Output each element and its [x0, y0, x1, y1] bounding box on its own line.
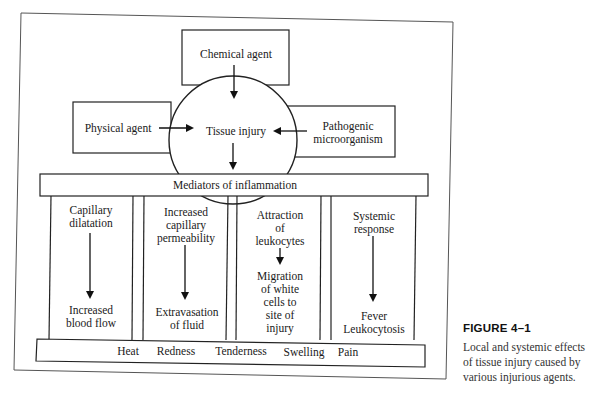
diagram-lines [0, 0, 598, 395]
sign-pain: Pain [323, 346, 373, 359]
mediators-label: Mediators of inflammation [150, 179, 320, 192]
sign-redness: Redness [146, 345, 206, 358]
figure-caption-text: Local and systemic effects of tissue inj… [463, 340, 598, 385]
tissue-injury-label: Tissue injury [196, 125, 276, 138]
column-1-effect: Increased blood flow [55, 304, 127, 330]
sign-heat: Heat [108, 345, 148, 358]
column-2-effect: Extravasation of fluid [147, 306, 227, 332]
column-2-cause: Increased capillary permeability [147, 206, 225, 245]
column-3-effect: Migration of white cells to site of inju… [240, 270, 320, 335]
column-4-cause: Systemic response [334, 210, 414, 236]
figure-caption-title: FIGURE 4–1 [463, 322, 531, 334]
column-1-cause: Capillary dilatation [55, 204, 127, 230]
chemical-agent-label: Chemical agent [186, 48, 286, 61]
pathogenic-microorganism-label: Pathogenic microorganism [303, 120, 393, 146]
physical-agent-label: Physical agent [78, 122, 158, 135]
signs-row: Heat Redness Tenderness Swelling Pain [36, 345, 426, 361]
column-3-cause: Attraction of leukocytes [240, 209, 320, 248]
column-4-effect: Fever Leukocytosis [334, 310, 414, 336]
